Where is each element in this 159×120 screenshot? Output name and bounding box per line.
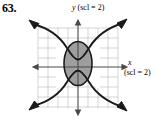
hyperbola-lower-right-arrowhead — [117, 102, 127, 112]
hyperbola-lower-left-arrowhead — [29, 101, 39, 110]
hyperbola-upper-left-arrowhead — [29, 20, 39, 29]
y-axis-bottom-arrowhead — [76, 110, 81, 115]
x-axis-left-arrowhead — [33, 65, 38, 70]
y-axis-top-arrowhead — [76, 20, 81, 25]
figure-container: 63. y (scl = 2) x (scl = 2) — [0, 0, 159, 120]
hyperbola-upper-right-arrowhead — [117, 19, 127, 29]
coordinate-plane-plot — [0, 0, 159, 120]
x-axis-right-arrowhead — [122, 65, 127, 70]
